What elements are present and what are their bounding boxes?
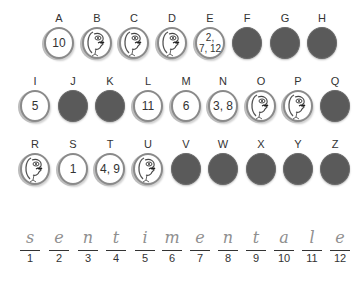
answer-slot[interactable]: n3 <box>75 228 101 268</box>
letter-label: O <box>243 75 279 87</box>
face-coin[interactable] <box>283 90 313 122</box>
letter-label: C <box>116 12 152 24</box>
letter-label: A <box>41 12 77 24</box>
handwritten-letter: s <box>17 228 43 248</box>
blank-underline <box>162 250 182 251</box>
answer-slot[interactable]: i5 <box>132 228 158 268</box>
letter-cell-s: S1 <box>55 138 91 194</box>
unused-coin[interactable] <box>307 27 337 59</box>
number-coin[interactable]: 6 <box>171 90 201 122</box>
coin-position-numbers: 4, 9 <box>100 163 120 175</box>
unused-coin[interactable] <box>246 153 276 185</box>
face-coin[interactable] <box>133 153 163 185</box>
letter-label: S <box>55 138 91 150</box>
handwritten-letter: e <box>187 228 213 248</box>
letter-label: K <box>92 75 128 87</box>
answer-slot[interactable]: t9 <box>243 228 269 268</box>
letter-label: J <box>55 75 91 87</box>
letter-label: N <box>205 75 241 87</box>
blank-underline <box>274 250 294 251</box>
face-icon <box>248 92 274 120</box>
handwritten-letter: e <box>46 228 72 248</box>
unused-coin[interactable] <box>171 153 201 185</box>
answer-slot[interactable]: t4 <box>103 228 129 268</box>
face-icon <box>22 155 48 183</box>
answer-slot[interactable]: e12 <box>327 228 353 268</box>
letter-label: V <box>168 138 204 150</box>
number-coin[interactable]: 11 <box>133 90 163 122</box>
number-coin[interactable]: 10 <box>44 27 74 59</box>
letter-label: D <box>154 12 190 24</box>
letter-cell-k: K <box>92 75 128 131</box>
letter-cell-g: G <box>267 12 303 68</box>
coin-position-numbers: 5 <box>32 100 39 112</box>
letter-cell-y: Y <box>280 138 316 194</box>
slot-index: 2 <box>46 252 72 264</box>
letter-cell-m: M6 <box>168 75 204 131</box>
handwritten-letter: a <box>271 228 297 248</box>
handwritten-letter: n <box>215 228 241 248</box>
number-coin[interactable]: 3, 8 <box>208 90 238 122</box>
letter-cell-w: W <box>205 138 241 194</box>
letter-cell-h: H <box>304 12 340 68</box>
letter-cell-j: J <box>55 75 91 131</box>
face-coin[interactable] <box>82 27 112 59</box>
face-coin[interactable] <box>157 27 187 59</box>
slot-index: 9 <box>243 252 269 264</box>
letter-label: F <box>229 12 265 24</box>
unused-coin[interactable] <box>95 90 125 122</box>
face-coin[interactable] <box>246 90 276 122</box>
unused-coin[interactable] <box>208 153 238 185</box>
answer-slot[interactable]: l11 <box>299 228 325 268</box>
letter-label: T <box>92 138 128 150</box>
unused-coin[interactable] <box>283 153 313 185</box>
handwritten-letter: l <box>299 228 325 248</box>
unused-coin[interactable] <box>232 27 262 59</box>
letter-cell-c: C <box>116 12 152 68</box>
letter-label: Y <box>280 138 316 150</box>
blank-underline <box>246 250 266 251</box>
face-coin[interactable] <box>20 153 50 185</box>
number-coin[interactable]: 2, 7, 12 <box>195 27 225 59</box>
letter-cell-r: R <box>17 138 53 194</box>
handwritten-letter: m <box>159 228 185 248</box>
letter-cell-d: D <box>154 12 190 68</box>
letter-label: Q <box>317 75 353 87</box>
slot-index: 4 <box>103 252 129 264</box>
slot-index: 8 <box>215 252 241 264</box>
number-coin[interactable]: 1 <box>58 153 88 185</box>
letter-cell-l: L11 <box>130 75 166 131</box>
blank-underline <box>302 250 322 251</box>
coin-position-numbers: 3, 8 <box>213 100 233 112</box>
face-coin[interactable] <box>119 27 149 59</box>
slot-index: 11 <box>299 252 325 264</box>
answer-slot[interactable]: s1 <box>17 228 43 268</box>
face-icon <box>135 155 161 183</box>
answer-slot[interactable]: m6 <box>159 228 185 268</box>
unused-coin[interactable] <box>270 27 300 59</box>
letter-cell-v: V <box>168 138 204 194</box>
unused-coin[interactable] <box>320 90 350 122</box>
blank-underline <box>190 250 210 251</box>
number-coin[interactable]: 5 <box>20 90 50 122</box>
answer-slot[interactable]: e7 <box>187 228 213 268</box>
letter-cell-u: U <box>130 138 166 194</box>
slot-index: 6 <box>159 252 185 264</box>
slot-index: 5 <box>132 252 158 264</box>
answer-slot[interactable]: n8 <box>215 228 241 268</box>
answer-slot[interactable]: e2 <box>46 228 72 268</box>
unused-coin[interactable] <box>320 153 350 185</box>
slot-index: 7 <box>187 252 213 264</box>
unused-coin[interactable] <box>58 90 88 122</box>
face-icon <box>285 92 311 120</box>
number-coin[interactable]: 4, 9 <box>95 153 125 185</box>
blank-underline <box>78 250 98 251</box>
letter-label: X <box>243 138 279 150</box>
slot-index: 10 <box>271 252 297 264</box>
answer-slot[interactable]: a10 <box>271 228 297 268</box>
coin-position-numbers: 2, 7, 12 <box>199 32 221 54</box>
blank-underline <box>218 250 238 251</box>
blank-underline <box>106 250 126 251</box>
letter-label: P <box>280 75 316 87</box>
handwritten-letter: n <box>75 228 101 248</box>
